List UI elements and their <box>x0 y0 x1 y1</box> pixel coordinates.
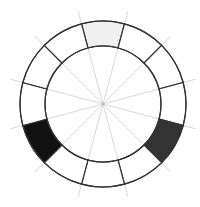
ring-segment-3 <box>159 83 186 126</box>
ring-segment-6 <box>82 160 125 187</box>
center-point <box>102 103 104 105</box>
ring-segment-0 <box>82 21 125 48</box>
ring-segment-9 <box>20 83 47 126</box>
color-wheel-diagram <box>0 0 200 207</box>
